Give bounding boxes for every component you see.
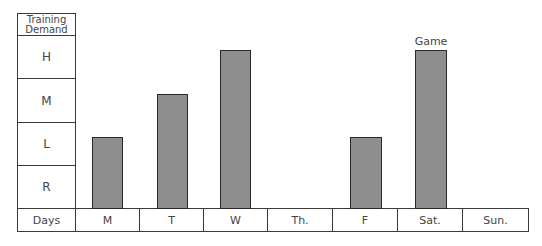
game-annotation: Game [405, 35, 457, 48]
y-axis-header-line2: Demand [25, 25, 67, 35]
day-label: F [362, 214, 368, 227]
y-axis-header-line1: Training [27, 15, 66, 25]
day-label: Sun. [483, 214, 507, 227]
bar-sat [415, 50, 447, 209]
bar-tue [157, 94, 188, 209]
bar-wed [220, 50, 251, 209]
y-level-l: L [17, 122, 76, 166]
y-level-r: R [17, 165, 76, 209]
day-cell-thu: Th. [267, 208, 333, 232]
day-cell-fri: F [332, 208, 398, 232]
day-label: Sat. [419, 214, 441, 227]
y-level-m: M [17, 78, 76, 123]
y-level-r-label: R [42, 180, 50, 194]
x-axis-header-label: Days [33, 214, 60, 227]
y-axis-header: Training Demand [17, 13, 76, 36]
y-level-h-label: H [42, 50, 51, 64]
day-cell-mon: M [75, 208, 140, 232]
day-cell-wed: W [203, 208, 268, 232]
day-cell-tue: T [139, 208, 204, 232]
y-level-l-label: L [43, 137, 50, 151]
day-cell-sun: Sun. [462, 208, 529, 232]
day-label: Th. [291, 214, 308, 227]
y-level-m-label: M [41, 94, 51, 108]
day-label: W [230, 214, 241, 227]
bar-fri [350, 137, 382, 209]
day-label: M [103, 214, 113, 227]
bar-mon [92, 137, 123, 209]
x-axis-header: Days [17, 208, 76, 232]
day-label: T [168, 214, 175, 227]
y-level-h: H [17, 35, 76, 79]
day-cell-sat: Sat. [397, 208, 463, 232]
